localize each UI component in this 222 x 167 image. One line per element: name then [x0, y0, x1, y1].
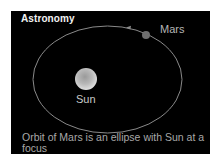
- sun-icon: [75, 68, 97, 90]
- mars-label: Mars: [160, 23, 184, 35]
- arrow-left-icon: [126, 26, 131, 30]
- mars-orbit: [33, 26, 182, 133]
- mars-icon: [142, 31, 150, 39]
- caption: Orbit of Mars is an ellipse with Sun at …: [22, 132, 212, 154]
- sun-label: Sun: [76, 93, 96, 105]
